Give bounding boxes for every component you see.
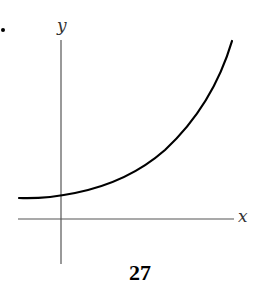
x-axis-label: x [238,208,248,225]
function-curve [19,41,232,198]
y-axis-label: y [57,17,67,34]
page-number: 27 [129,262,151,284]
